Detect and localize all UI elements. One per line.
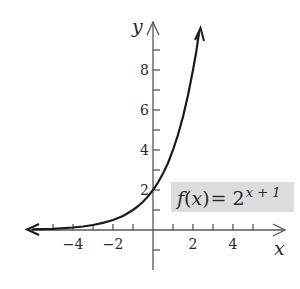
x-axis-label: x: [274, 237, 285, 259]
y-tick-labels: 2 4 6 8: [140, 62, 149, 198]
x-tick-label: 4: [229, 236, 238, 252]
x-tick-label: 2: [189, 236, 198, 252]
y-axis-label: y: [131, 15, 143, 37]
exponential-function-graph: f(x)= 2x + 1 −4 −2 2: [0, 0, 300, 289]
function-label: f(x)= 2x + 1: [171, 182, 294, 212]
y-tick-label: 8: [140, 62, 149, 78]
y-tick-label: 4: [140, 142, 149, 158]
x-tick-label: −4: [63, 236, 84, 252]
x-tick-labels: −4 −2 2 4: [63, 236, 238, 252]
x-axis: [30, 224, 285, 236]
y-tick-label: 6: [140, 102, 149, 118]
x-tick-label: −2: [103, 236, 124, 252]
